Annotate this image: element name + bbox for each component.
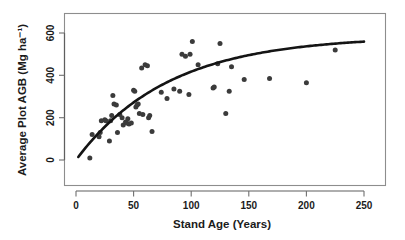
data-point (267, 76, 272, 81)
data-point (125, 116, 130, 121)
y-tick-label-200: 200 (45, 109, 56, 126)
data-point (304, 80, 309, 85)
data-point (145, 63, 150, 68)
x-tick-label-0: 0 (73, 200, 79, 211)
y-tick-label-600: 600 (45, 24, 56, 41)
data-point (129, 120, 134, 125)
data-point (114, 102, 119, 107)
data-point (107, 138, 112, 143)
y-axis-title: Average Plot AGB (Mg ha⁻¹) (16, 24, 28, 176)
y-tick-label-0: 0 (45, 157, 56, 163)
data-point (218, 41, 223, 46)
data-point (147, 113, 152, 118)
data-point (115, 130, 120, 135)
x-tick-label-250: 250 (356, 200, 373, 211)
data-point (171, 87, 176, 92)
data-point (177, 89, 182, 94)
data-point (227, 89, 232, 94)
x-tick-label-150: 150 (240, 200, 257, 211)
data-point (196, 62, 201, 67)
x-tick-label-50: 50 (128, 200, 140, 211)
y-tick-label-400: 400 (45, 67, 56, 84)
x-tick-label-100: 100 (183, 200, 200, 211)
data-point (229, 64, 234, 69)
data-point (188, 52, 193, 57)
data-point (186, 92, 191, 97)
data-point (140, 112, 145, 117)
data-point (159, 90, 164, 95)
data-point (333, 47, 338, 52)
data-point (136, 101, 141, 106)
data-point (110, 93, 115, 98)
x-tick-label-200: 200 (298, 200, 315, 211)
data-point (223, 111, 228, 116)
data-point (190, 39, 195, 44)
data-point (150, 129, 155, 134)
data-point (183, 54, 188, 59)
data-point (212, 84, 217, 89)
x-axis-title: Stand Age (Years) (173, 218, 271, 230)
scatter-plot: 600 400 200 0 Average Plot AGB (Mg ha⁻¹)… (0, 0, 405, 240)
figure-background (0, 0, 405, 240)
data-point (87, 155, 92, 160)
data-point (120, 115, 125, 120)
data-point (132, 89, 137, 94)
data-point (242, 77, 247, 82)
data-point (165, 96, 170, 101)
chart-figure: 600 400 200 0 Average Plot AGB (Mg ha⁻¹)… (0, 0, 405, 240)
